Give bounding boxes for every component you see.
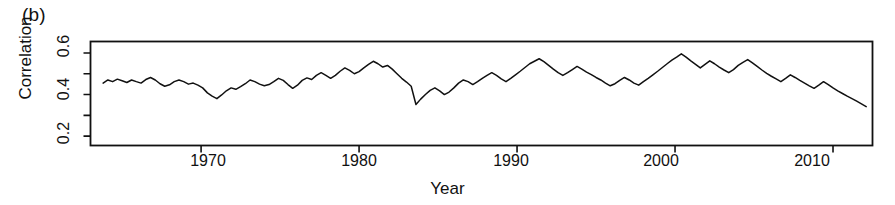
x-tick-label-1990: 1990 [471, 152, 551, 170]
y-axis-title: Correlation [16, 0, 36, 128]
correlation-series-line [103, 54, 866, 107]
plot-area [0, 0, 895, 205]
x-tick-label-1970: 1970 [168, 152, 248, 170]
x-tick-label-2010: 2010 [772, 152, 852, 170]
x-tick-label-1980: 1980 [319, 152, 399, 170]
y-tick-label-0: 0.2 [55, 113, 73, 153]
y-tick-marks [84, 53, 91, 136]
figure-panel-b: (b) Correlation Year 0.2 0.4 0.6 1970 19… [0, 0, 895, 205]
x-tick-label-2000: 2000 [621, 152, 701, 170]
y-tick-label-2: 0.4 [55, 69, 73, 109]
y-tick-label-4: 0.6 [55, 26, 73, 66]
x-axis-title: Year [0, 179, 895, 199]
